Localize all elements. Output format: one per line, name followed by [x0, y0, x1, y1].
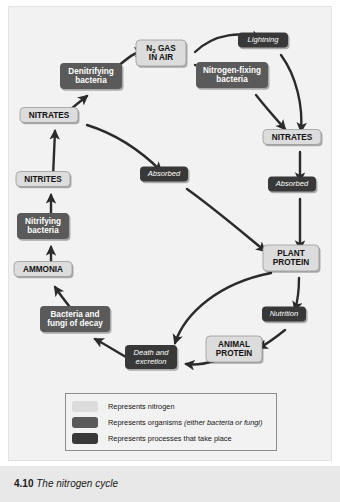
figure-nitrogen-cycle: N2 GASIN AIRLightningDenitrifyingbacteri…	[0, 0, 340, 502]
node-animal: ANIMALPROTEIN	[206, 336, 264, 364]
edge-nitrites-to-nitrates_l	[53, 131, 55, 177]
edge-lightning-to-nitrates_r	[281, 55, 301, 131]
node-layer: N2 GASIN AIRLightningDenitrifyingbacteri…	[14, 33, 323, 371]
legend-swatch	[72, 401, 98, 412]
caption-number: 4.10	[14, 478, 33, 489]
node-label-line1: AMMONIA	[23, 265, 63, 274]
node-nutrition: Nutrition	[262, 307, 308, 324]
node-label-line2: PROTEIN	[273, 258, 309, 267]
node-label-line2: bacteria	[27, 226, 59, 235]
node-plant: PLANTPROTEIN	[263, 245, 321, 273]
legend-label: Represents processes that take place	[108, 434, 232, 443]
node-label-line1: NITRATES	[29, 111, 70, 120]
node-label-line1: Nitrifying	[25, 217, 61, 226]
node-nitrifying: Nitrifyingbacteria	[17, 213, 71, 241]
node-label-line1: ANIMAL	[218, 340, 250, 349]
legend-label-emphasis: (either bacteria or fungi)	[184, 418, 262, 427]
edge-plant-to-death	[175, 273, 271, 343]
node-label-line1: Bacteria and	[50, 310, 99, 319]
legend-label: Represents nitrogen	[108, 402, 175, 411]
edge-nitrates_l-to-absorbed_c	[87, 125, 161, 171]
node-denitrifying: Denitrifyingbacteria	[60, 63, 124, 91]
node-label-line1: PLANT	[277, 249, 304, 258]
node-nitrites: NITRITES	[16, 172, 72, 189]
node-label-line1: NITRATES	[272, 133, 313, 142]
node-lightning: Lightning	[238, 33, 290, 50]
node-absorbed_r: Absorbed	[268, 177, 318, 194]
node-label-line1: Denitrifying	[68, 67, 114, 76]
node-nitrates_l: NITRATES	[20, 108, 80, 125]
node-n2gas: N2 GASIN AIR	[136, 40, 188, 68]
node-death: Death andexcretion	[125, 345, 179, 371]
legend-label: Represents organisms (either bacteria or…	[108, 418, 262, 427]
node-label-line1: N2 GAS	[146, 44, 176, 54]
diagram-panel: N2 GASIN AIRLightningDenitrifyingbacteri…	[8, 6, 332, 461]
legend-row: Represents processes that take place	[72, 431, 270, 446]
node-nitrates_r: NITRATES	[263, 130, 323, 147]
legend-swatch	[72, 417, 98, 428]
legend: Represents nitrogenRepresents organisms …	[65, 393, 277, 451]
node-label-line1: Nutrition	[270, 309, 298, 318]
node-label-line2: PROTEIN	[216, 349, 252, 358]
legend-row: Represents nitrogen	[72, 399, 270, 414]
node-label-line1: Nitrogen-fixing	[203, 66, 261, 75]
edge-plant-to-nutrition	[295, 278, 299, 310]
node-label-line2: bacteria	[216, 75, 248, 84]
node-ammonia: AMMONIA	[14, 262, 74, 279]
node-label-line2: bacteria	[75, 76, 107, 85]
node-absorbed_c: Absorbed	[140, 167, 190, 184]
node-label-line2: fungi of decay	[47, 319, 103, 328]
node-label-line1: Absorbed	[275, 179, 309, 188]
figure-caption: 4.10 The nitrogen cycle	[14, 478, 118, 489]
node-label-line1: Absorbed	[147, 169, 181, 178]
legend-row: Represents organisms (either bacteria or…	[72, 415, 270, 430]
edge-nfixing-to-nitrates_r	[256, 95, 285, 129]
node-nfixing: Nitrogen-fixingbacteria	[196, 62, 270, 90]
caption-title: The nitrogen cycle	[36, 478, 118, 489]
edge-absorbed_c-to-plant	[187, 189, 265, 251]
node-label-line2: IN AIR	[149, 53, 173, 62]
node-label-line1: NITRITES	[24, 175, 62, 184]
node-decay: Bacteria andfungi of decay	[40, 306, 112, 334]
node-label-line1: Lightning	[248, 35, 280, 44]
node-label-line2: excretion	[136, 357, 167, 366]
legend-swatch	[72, 433, 98, 444]
